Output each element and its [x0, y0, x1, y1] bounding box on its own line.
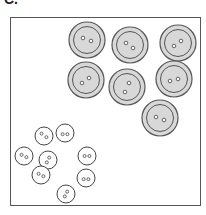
large-button-icon: [156, 61, 192, 97]
small-button-icon: [32, 166, 50, 184]
large-button-icon: [69, 22, 105, 58]
small-button-icon: [77, 169, 95, 187]
small-button-icon: [57, 185, 75, 203]
large-button-icon: [160, 25, 196, 61]
large-button-icon: [68, 62, 104, 98]
large-button-icon: [109, 69, 145, 105]
large-button-icon: [112, 27, 148, 63]
small-button-icon: [35, 127, 53, 145]
buttons-illustration: [0, 0, 206, 215]
small-button-icon: [56, 124, 74, 142]
large-button-icon: [142, 100, 178, 136]
small-button-icon: [78, 147, 96, 165]
small-button-icon: [15, 147, 33, 165]
